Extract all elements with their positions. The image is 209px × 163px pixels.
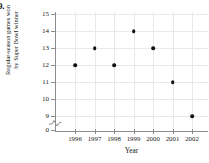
- y-axis-tick-label: 15: [31, 11, 49, 18]
- y-axis-tick-label: 13: [31, 45, 49, 52]
- x-axis-line: [55, 131, 208, 132]
- y-axis-tick-label: 11: [31, 79, 49, 86]
- gridline-vertical: [192, 12, 193, 131]
- x-axis-tick-label-text: 2002: [180, 135, 204, 143]
- y-axis-tick-label-text: 13: [33, 45, 49, 52]
- x-axis-tick: [75, 129, 76, 134]
- x-axis-tick: [114, 129, 115, 134]
- y-axis-title-line-2: by Super Bowl winner: [12, 0, 20, 100]
- y-axis-tick-label: 10: [31, 96, 49, 103]
- data-point: [151, 46, 155, 50]
- y-axis-tick-label: 12: [31, 62, 49, 69]
- y-axis-tick-label: 9: [31, 113, 49, 120]
- y-axis-tick-label-text: 10: [33, 96, 49, 103]
- data-point: [112, 63, 116, 67]
- x-axis-title: Year: [55, 146, 208, 155]
- y-axis-tick-label: 14: [31, 28, 49, 35]
- y-axis-tick-label-text: 12: [33, 62, 49, 69]
- gridline-horizontal: [55, 48, 208, 49]
- y-axis-tick-label-text: 0: [33, 127, 49, 134]
- y-axis-tick: [51, 99, 56, 100]
- x-axis-tick: [134, 129, 135, 134]
- gridline-vertical: [114, 12, 115, 131]
- gridline-horizontal: [55, 14, 208, 15]
- scatter-plot-figure: 9. Regular-season games won by Super Bow…: [0, 0, 209, 163]
- gridline-horizontal: [55, 65, 208, 66]
- data-point: [132, 29, 136, 33]
- x-axis-tick-label: 2002: [180, 135, 204, 143]
- y-axis-tick-label-text: 11: [33, 79, 49, 86]
- y-axis-tick: [51, 82, 56, 83]
- y-axis-tick: [51, 48, 56, 49]
- x-axis-tick: [173, 129, 174, 134]
- gridline-horizontal: [55, 99, 208, 100]
- plot-area: [55, 12, 208, 131]
- y-axis-title: Regular-season games won by Super Bowl w…: [4, 0, 28, 100]
- x-axis-tick: [153, 129, 154, 134]
- gridline-vertical: [153, 12, 154, 131]
- axis-break-icon: [48, 113, 62, 127]
- y-axis-tick-label-text: 9: [33, 113, 49, 120]
- gridline-vertical: [173, 12, 174, 131]
- x-axis-tick: [95, 129, 96, 134]
- gridline-vertical: [75, 12, 76, 131]
- y-axis-title-line-1: Regular-season games won: [4, 0, 12, 100]
- data-point: [73, 63, 77, 67]
- y-axis-tick-label: 0: [31, 127, 49, 134]
- data-point: [171, 80, 175, 84]
- y-axis-tick: [51, 65, 56, 66]
- y-axis-tick-label-text: 14: [33, 28, 49, 35]
- data-point: [93, 46, 97, 50]
- y-axis-tick: [51, 130, 56, 131]
- y-axis-tick-label-text: 15: [33, 11, 49, 18]
- gridline-vertical: [95, 12, 96, 131]
- gridline-horizontal: [55, 116, 208, 117]
- x-axis-tick: [192, 129, 193, 134]
- gridline-horizontal: [55, 82, 208, 83]
- y-axis-tick: [51, 14, 56, 15]
- y-axis-tick: [51, 31, 56, 32]
- data-point: [190, 114, 194, 118]
